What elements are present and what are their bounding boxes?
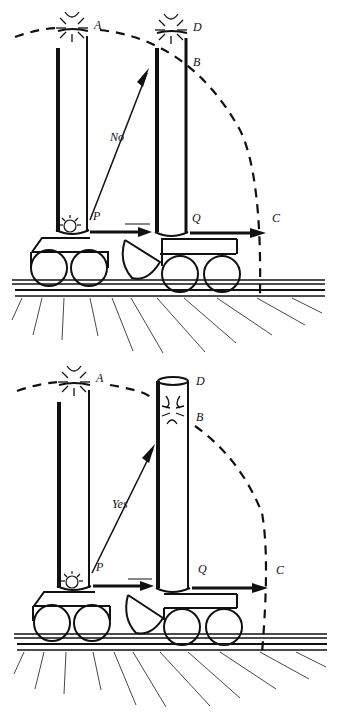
label-b: B <box>193 55 201 69</box>
panel-no: No A D B P Q C <box>0 0 337 358</box>
label-p: P <box>92 209 101 223</box>
left-tube <box>57 390 91 590</box>
flash-icon-a <box>58 366 90 396</box>
label-yes: Yes <box>112 497 128 511</box>
label-no: No <box>109 130 124 144</box>
diagram-yes: Yes A D B P Q C <box>0 358 337 717</box>
ground-hatching <box>14 652 326 707</box>
wavefront-arc <box>17 382 266 653</box>
cart <box>33 592 242 645</box>
panel-yes: Yes A D B P Q C <box>0 358 337 717</box>
label-c: C <box>276 563 285 577</box>
label-d: D <box>195 374 205 388</box>
label-a: A <box>93 18 102 32</box>
diagram-no: No A D B P Q C <box>0 0 337 358</box>
label-d: D <box>192 20 202 34</box>
flash-icon-b <box>162 396 184 424</box>
label-q: Q <box>198 562 207 576</box>
light-source-icon-p <box>59 215 81 232</box>
flash-icon-d <box>155 14 187 44</box>
light-source-icon-p <box>61 571 83 588</box>
right-tube <box>155 38 188 236</box>
label-b: B <box>196 410 204 424</box>
label-p: P <box>95 560 104 574</box>
label-a: A <box>95 371 104 385</box>
right-tube <box>156 377 190 592</box>
light-path-arrow-yes: Yes <box>92 444 155 573</box>
label-c: C <box>272 211 281 225</box>
label-q: Q <box>192 211 201 225</box>
flash-icon-a <box>56 12 88 42</box>
left-tube <box>56 36 89 234</box>
ground-hatching <box>12 298 322 353</box>
light-path-arrow-no: No <box>90 68 149 220</box>
